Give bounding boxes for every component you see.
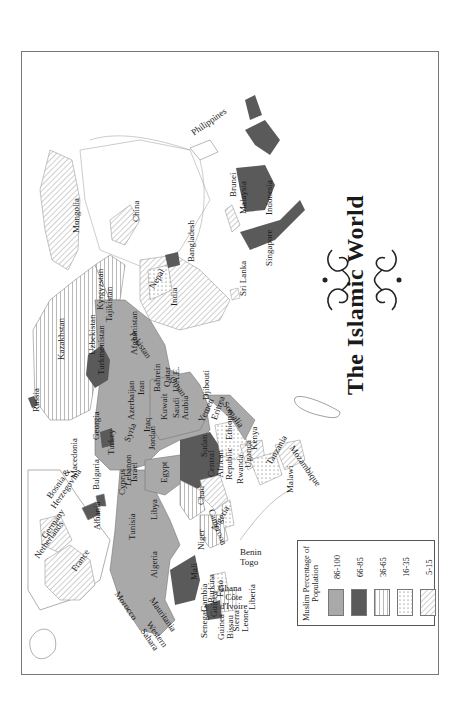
country-label: Albania [93, 502, 102, 531]
country-label: India [170, 288, 179, 307]
country-label: Kenya [250, 427, 259, 451]
country-label: Malaysia [239, 181, 248, 214]
legend-label: 86-100 [332, 555, 342, 579]
country-label: Kazakhstan [57, 318, 66, 360]
legend-swatch-diagonal-lines [420, 589, 436, 616]
country-label: Bahrein [153, 364, 162, 393]
country-label: Saudi Arabia [172, 396, 190, 421]
legend-label: 36-65 [378, 557, 388, 577]
country-label: Senegal [200, 610, 209, 639]
legend-swatch-solid-light [328, 589, 344, 616]
country-label: Israel [130, 462, 139, 482]
country-label: Jordan [148, 426, 157, 450]
country-label: Libya [150, 499, 159, 520]
country-label: Turkmenistan [97, 325, 106, 375]
country-label: Egypt [160, 462, 169, 484]
legend-item-16-35 [397, 589, 413, 616]
country-label: Macedonia [70, 438, 79, 478]
country-label: Sudan [200, 435, 209, 458]
country-label: Chad [197, 486, 206, 505]
legend-swatch-dots [397, 589, 413, 616]
country-label: Iran [137, 381, 146, 396]
country-label: Tajikistan [105, 287, 114, 322]
legend-title: Muslim Percentage of Population [302, 546, 320, 621]
country-label: Brunei [229, 173, 238, 198]
legend-item-36-65 [374, 589, 390, 616]
legend-swatch-vertical-lines [374, 589, 390, 616]
country-label: Mongolia [72, 198, 81, 233]
country-label: Qatar [163, 367, 172, 387]
country-label: Georgia [92, 411, 101, 440]
country-label: Mali [190, 563, 199, 580]
map-title: The Islamic World [342, 195, 369, 395]
country-label: Tunisia [128, 513, 137, 540]
country-label: Central African Republic [207, 448, 234, 481]
country-label: Singapore [265, 230, 274, 267]
country-label: China [132, 201, 141, 223]
legend-label: 66-85 [355, 557, 365, 577]
country-label: Sierra Leone [232, 610, 250, 633]
legend-label: 16-35 [401, 557, 411, 577]
country-label: Togo [240, 558, 258, 567]
legend-item-5-15 [420, 589, 436, 616]
legend-item-86-100 [328, 589, 344, 616]
country-label: Bangladesh [187, 220, 196, 262]
country-label: Côte d'Ivoire [220, 593, 248, 611]
country-label: Bulgaria [92, 459, 101, 490]
country-label: Liberia [248, 584, 257, 610]
legend: Muslim Percentage of Population 86-100 6… [297, 540, 435, 626]
country-label: Azerbaijan [127, 381, 136, 420]
country-label: Indonesia [265, 180, 274, 215]
country-label: Turkey [107, 429, 116, 455]
legend-label: 5-15 [424, 559, 434, 575]
country-label: Sri Lanka [239, 261, 248, 296]
legend-item-66-85 [351, 589, 367, 616]
country-label: Russia [32, 388, 41, 412]
country-label: Djibouti [202, 370, 211, 400]
country-label: U.A.E. [172, 367, 181, 392]
country-label: Malawi [286, 466, 295, 494]
legend-swatch-solid-dark [351, 589, 367, 616]
country-label: Niger [197, 530, 206, 551]
country-label: Benin [240, 548, 262, 557]
country-label: Kuwait [160, 394, 169, 421]
country-label: Algeria [150, 551, 159, 578]
